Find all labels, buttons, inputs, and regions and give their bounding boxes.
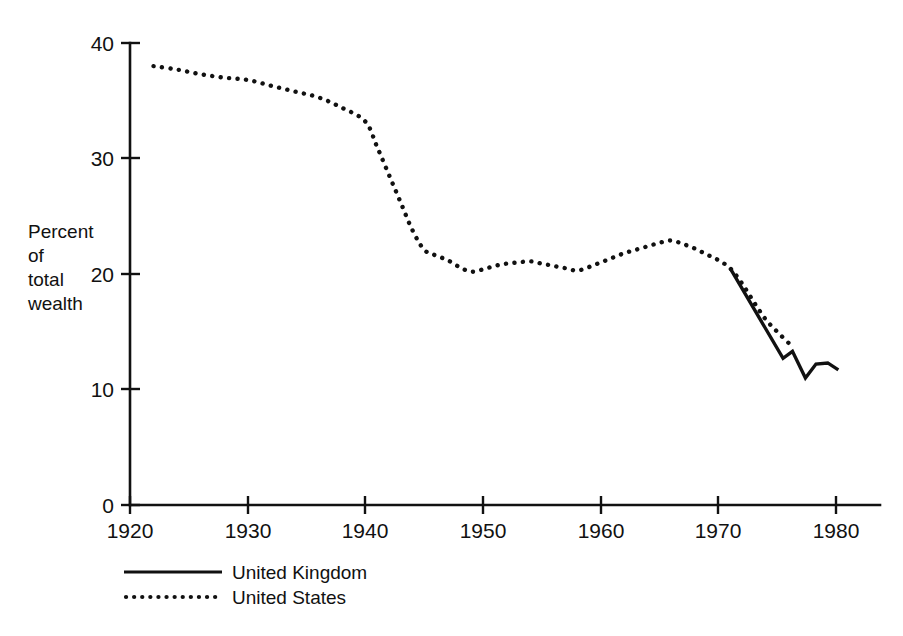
x-tick-label-1930: 1930 — [225, 519, 272, 542]
y-tick-label-40: 40 — [91, 32, 114, 55]
x-tick-label-1940: 1940 — [342, 519, 389, 542]
chart-legend: United Kingdom United States — [124, 562, 367, 608]
y-axis-title: Percent of total wealth — [27, 221, 94, 314]
chart-canvas: 40 30 20 10 0 1920 1930 1940 1950 1960 1… — [0, 0, 903, 636]
x-tick-label-1970: 1970 — [695, 519, 742, 542]
wealth-share-chart-figure: 40 30 20 10 0 1920 1930 1940 1950 1960 1… — [0, 0, 903, 636]
y-axis-title-line-2: of — [28, 245, 45, 266]
y-axis-title-line-3: total — [28, 269, 64, 290]
y-tick-label-30: 30 — [91, 147, 114, 170]
y-tick-label-20: 20 — [91, 263, 114, 286]
y-tick-label-10: 10 — [91, 378, 114, 401]
legend-label-united-kingdom: United Kingdom — [232, 562, 367, 583]
series-line-united-states — [154, 66, 789, 343]
y-axis-title-line-4: wealth — [27, 293, 83, 314]
series-line-united-kingdom — [730, 268, 838, 378]
x-tick-label-1960: 1960 — [578, 519, 625, 542]
x-tick-label-1980: 1980 — [813, 519, 860, 542]
x-tick-label-1950: 1950 — [460, 519, 507, 542]
x-tick-label-1920: 1920 — [107, 519, 154, 542]
y-tick-label-0: 0 — [102, 494, 114, 517]
y-axis-title-line-1: Percent — [28, 221, 94, 242]
legend-label-united-states: United States — [232, 587, 346, 608]
